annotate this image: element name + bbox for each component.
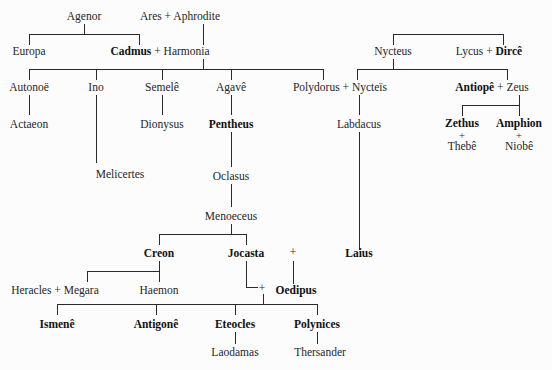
node-nycteus: Nycteus bbox=[374, 45, 412, 58]
node-agenor: Agenor bbox=[67, 10, 102, 23]
line-to-amphion bbox=[519, 105, 520, 116]
node-zethus-thebe: Zethus + Thebê bbox=[445, 118, 479, 152]
node-polydorus-nycteis: Polydorus + Nycteïs bbox=[293, 81, 387, 94]
line-to-eteocles bbox=[235, 304, 236, 315]
node-melicertes: Melicertes bbox=[96, 168, 145, 181]
line-oedipus-children-bus bbox=[57, 304, 317, 305]
node-antigone: Antigonê bbox=[134, 318, 179, 331]
line-nycteus-lycus-bus bbox=[393, 34, 503, 35]
line-autonoe-actaeon bbox=[29, 95, 30, 115]
node-lycus-dirce: Lycus + Dircê bbox=[456, 45, 522, 58]
node-autonoe: Autonoë bbox=[9, 81, 49, 94]
node-thersander: Thersander bbox=[294, 346, 346, 359]
node-semele: Semelê bbox=[145, 81, 179, 94]
line-to-ismene bbox=[57, 304, 58, 315]
node-jocasta: Jocasta bbox=[228, 247, 264, 260]
line-oclasus-menoeceus bbox=[231, 184, 232, 207]
line-to-polynices bbox=[317, 304, 318, 315]
line-to-nycteis bbox=[357, 69, 358, 80]
node-oclasus: Oclasus bbox=[213, 170, 249, 183]
line-to-cadmus bbox=[139, 34, 140, 45]
line-to-antigone bbox=[156, 304, 157, 315]
line-to-antiope bbox=[507, 69, 508, 80]
node-ismene: Ismenê bbox=[39, 318, 74, 331]
node-europa: Europa bbox=[12, 45, 45, 58]
line-ares-to-harmonia bbox=[203, 24, 204, 45]
node-menoeceus: Menoeceus bbox=[205, 210, 257, 223]
node-heracles-megara: Heracles + Megara bbox=[11, 284, 99, 297]
line-labdacus-laius bbox=[359, 132, 360, 250]
line-jocasta-drop bbox=[246, 261, 247, 288]
line-to-creon bbox=[159, 234, 160, 245]
line-to-zethus bbox=[462, 105, 463, 116]
node-laodamas: Laodamas bbox=[211, 346, 258, 359]
line-cadmus-children-bus bbox=[29, 69, 324, 70]
node-eteocles: Eteocles bbox=[215, 318, 255, 331]
node-pentheus: Pentheus bbox=[209, 118, 254, 131]
node-haemon: Haemon bbox=[140, 284, 179, 297]
node-agave: Agavê bbox=[216, 81, 246, 94]
line-to-ino bbox=[96, 69, 97, 80]
line-to-autonoe bbox=[29, 69, 30, 80]
node-labdacus: Labdacus bbox=[337, 118, 381, 131]
line-to-nycteus bbox=[393, 34, 394, 45]
line-creon-children-bus bbox=[87, 271, 159, 272]
line-to-semele bbox=[162, 69, 163, 80]
node-polynices: Polynices bbox=[294, 318, 340, 331]
line-antiope-children-bus bbox=[462, 105, 519, 106]
line-polydorus-labdacus bbox=[359, 95, 360, 115]
line-to-polydorus bbox=[323, 69, 324, 80]
line-to-megara bbox=[87, 271, 88, 282]
line-eteocles-laodamas bbox=[235, 332, 236, 344]
node-ino: Ino bbox=[88, 81, 103, 94]
line-pentheus-oclasus bbox=[231, 132, 232, 167]
genealogy-chart: Agenor Ares + Aphrodite Europa Cadmus + … bbox=[0, 0, 552, 370]
node-amphion-niobe: Amphion + Niobê bbox=[496, 118, 542, 152]
line-agave-pentheus bbox=[231, 95, 232, 115]
line-jocasta-elbow bbox=[246, 287, 258, 288]
node-ares-aphrodite: Ares + Aphrodite bbox=[140, 10, 220, 23]
union-plus-jocasta-oedipus: + bbox=[259, 283, 266, 295]
line-to-europa bbox=[29, 34, 30, 45]
node-actaeon: Actaeon bbox=[10, 118, 48, 131]
node-cadmus-harmonia: Cadmus + Harmonia bbox=[110, 45, 209, 58]
line-to-haemon bbox=[159, 271, 160, 282]
line-ino-melicertes bbox=[96, 95, 97, 163]
line-to-agave bbox=[231, 69, 232, 80]
node-dionysus: Dionysus bbox=[140, 118, 183, 131]
node-oedipus: Oedipus bbox=[276, 284, 317, 297]
line-laius-to-oedipus-union bbox=[293, 261, 294, 284]
line-to-jocasta bbox=[246, 234, 247, 245]
node-laius: Laius bbox=[345, 247, 373, 260]
line-semele-dionysus bbox=[162, 95, 163, 115]
node-creon: Creon bbox=[144, 247, 174, 260]
line-polynices-thersander bbox=[317, 332, 318, 344]
line-to-lycus bbox=[503, 34, 504, 45]
line-nycteus-children-bus bbox=[357, 69, 507, 70]
node-antiope-zeus: Antiopê + Zeus bbox=[455, 81, 529, 94]
union-plus-laius-jocasta: + bbox=[290, 247, 297, 259]
line-menoeceus-children-bus bbox=[159, 234, 246, 235]
line-agenor-bus bbox=[29, 34, 140, 35]
